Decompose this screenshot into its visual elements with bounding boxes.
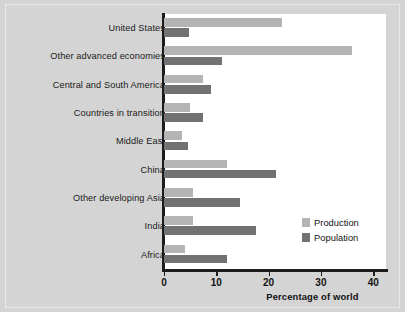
bar-group xyxy=(164,14,394,42)
category-label: Middle East xyxy=(5,136,165,146)
category-label: Countries in transition xyxy=(5,108,165,118)
bar-population xyxy=(164,57,222,66)
x-tick-label: 0 xyxy=(161,277,167,288)
legend-swatch-icon xyxy=(302,233,310,242)
x-tick-mark xyxy=(321,271,322,276)
bar-population xyxy=(164,142,188,151)
category-row: Other developing Asia xyxy=(0,184,405,212)
category-row: Central and South America xyxy=(0,71,405,99)
chart-legend: ProductionPopulation xyxy=(302,215,382,245)
bar-group xyxy=(164,99,394,127)
category-row: Countries in transition xyxy=(0,99,405,127)
category-label: Central and South America xyxy=(5,80,165,90)
x-tick-mark xyxy=(216,271,217,276)
bar-production xyxy=(164,46,352,55)
legend-entry: Production xyxy=(302,215,382,229)
bar-group xyxy=(164,184,394,212)
bar-production xyxy=(164,245,185,254)
bar-production xyxy=(164,160,227,169)
x-axis-title: Percentage of world xyxy=(225,291,400,302)
x-tick-label: 30 xyxy=(315,277,326,288)
x-tick-label: 10 xyxy=(211,277,222,288)
bar-group xyxy=(164,42,394,70)
category-label: China xyxy=(5,165,165,175)
category-row: United States xyxy=(0,14,405,42)
bar-group xyxy=(164,127,394,155)
bar-population xyxy=(164,85,211,94)
legend-label: Production xyxy=(314,217,359,228)
legend-swatch-icon xyxy=(302,218,310,227)
category-label: Other developing Asia xyxy=(5,193,165,203)
category-row: Other advanced economies xyxy=(0,42,405,70)
x-tick-mark xyxy=(164,271,165,276)
bar-production xyxy=(164,18,282,27)
x-tick-mark xyxy=(269,271,270,276)
category-label: United States xyxy=(5,23,165,33)
bar-population xyxy=(164,113,203,122)
x-axis-line xyxy=(162,269,388,272)
chart-figure: United StatesOther advanced economiesCen… xyxy=(0,0,405,312)
x-tick-mark xyxy=(373,271,374,276)
bar-production xyxy=(164,103,190,112)
bar-production xyxy=(164,131,182,140)
x-tick-label: 20 xyxy=(263,277,274,288)
bar-population xyxy=(164,28,189,37)
bar-production xyxy=(164,75,203,84)
category-row: Middle East xyxy=(0,127,405,155)
bar-population xyxy=(164,170,276,179)
bar-production xyxy=(164,216,193,225)
bar-group xyxy=(164,71,394,99)
category-label: Other advanced economies xyxy=(5,51,165,61)
bar-population xyxy=(164,255,227,264)
legend-label: Population xyxy=(314,232,358,243)
bar-population xyxy=(164,198,240,207)
x-tick-label: 40 xyxy=(368,277,379,288)
legend-entry: Population xyxy=(302,230,382,244)
category-row: China xyxy=(0,156,405,184)
bar-group xyxy=(164,156,394,184)
category-label: India xyxy=(5,221,165,231)
plot-area: United StatesOther advanced economiesCen… xyxy=(0,0,405,312)
bar-production xyxy=(164,188,193,197)
category-label: Africa xyxy=(5,250,165,260)
bar-population xyxy=(164,226,256,235)
